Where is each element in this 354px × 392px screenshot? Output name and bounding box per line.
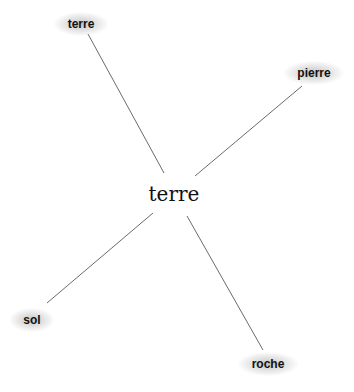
edge-terre-pierre — [195, 86, 302, 176]
edge-terre-sol — [47, 213, 153, 303]
edge-terre-terre — [88, 34, 164, 173]
node-pierre[interactable]: pierre — [283, 61, 344, 85]
node-roche[interactable]: roche — [238, 352, 299, 376]
node-sol[interactable]: sol — [9, 308, 54, 332]
edge-terre-roche — [187, 216, 263, 350]
center-node[interactable]: terre — [149, 182, 200, 206]
node-terre[interactable]: terre — [54, 12, 109, 36]
